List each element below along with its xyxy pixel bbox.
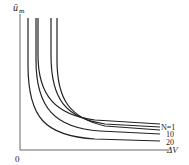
y-axis-subscript: m [19, 7, 25, 15]
y-axis-label: ū [13, 2, 18, 13]
origin-label: 0 [15, 154, 20, 164]
labels-layer: ū m ΔV 0 N=1 10 20 [0, 0, 189, 165]
legend-n20: 20 [166, 138, 174, 147]
